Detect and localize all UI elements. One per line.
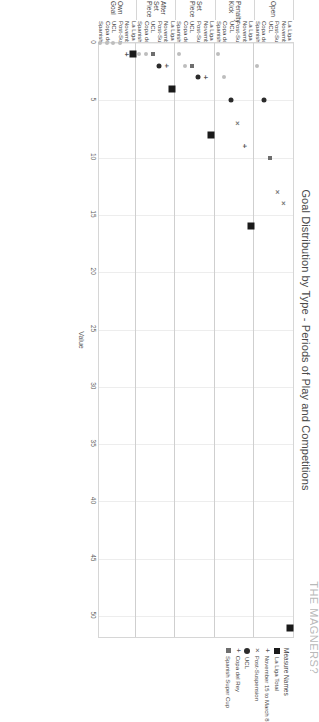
data-point[interactable] — [216, 52, 220, 56]
data-point[interactable] — [222, 75, 226, 79]
grid-line — [99, 272, 293, 273]
row-label: UCL — [229, 21, 236, 42]
data-point[interactable] — [190, 64, 194, 68]
row-label: La Liga Total — [248, 21, 255, 42]
legend-marker-icon: × — [253, 648, 261, 653]
row-label: UCL — [189, 21, 196, 42]
data-point[interactable] — [261, 98, 266, 103]
data-point[interactable] — [105, 41, 109, 45]
value-axis-label: Value — [78, 42, 85, 638]
row-label: La Liga Total — [209, 21, 216, 42]
legend-label: Post-Suspension — [254, 656, 260, 701]
group-label: After Set Piece — [137, 0, 175, 20]
chart-title: Goal Distribution by Type - Periods of P… — [300, 0, 312, 680]
data-point[interactable] — [247, 223, 254, 230]
row-label: Post-Suspension — [235, 21, 242, 42]
legend-marker-icon — [226, 648, 231, 653]
group-separator — [174, 43, 175, 637]
row-label: November 15 to March 8 — [124, 21, 131, 42]
data-point[interactable] — [208, 131, 215, 138]
legend-marker-icon: + — [234, 648, 242, 653]
group-header: Open — [255, 0, 294, 20]
row-label: Post-Suspension — [196, 21, 203, 42]
legend-label: La Liga Total — [274, 657, 280, 691]
grid-line — [99, 43, 293, 44]
group-label: Set Piece — [176, 0, 214, 20]
grid-line — [99, 387, 293, 388]
data-point[interactable] — [183, 64, 187, 68]
row-label: La Liga Total — [287, 21, 294, 42]
legend-marker-icon: + — [264, 648, 272, 653]
row-label: UCL — [111, 21, 118, 42]
value-axis: Value 05101520253035404550 — [73, 42, 97, 638]
group-label: Own Goal — [98, 0, 136, 20]
data-point[interactable]: × — [273, 190, 281, 195]
legend-label: UCL — [245, 657, 251, 669]
row-label: UCL — [268, 21, 275, 42]
group-separator — [135, 43, 136, 637]
row-label: Spanish Super Cup — [176, 21, 183, 42]
row-label: November 15 to March 8 — [281, 21, 288, 42]
data-point[interactable] — [177, 52, 181, 56]
row-label: November 15 to March 8 — [242, 21, 249, 42]
data-point[interactable]: × — [279, 201, 287, 206]
group-header: Penalty Kick — [216, 0, 255, 20]
legend-label: November 15 to March 8 — [265, 656, 271, 722]
axis-tick-label: 45 — [90, 554, 97, 561]
axis-tick-label: 30 — [90, 382, 97, 389]
data-point[interactable] — [151, 52, 155, 56]
data-point[interactable] — [286, 624, 293, 631]
row-label: Post-Suspension — [274, 21, 281, 42]
data-point[interactable]: × — [233, 121, 241, 126]
group-separator — [253, 43, 254, 637]
row-label: Post-Suspension — [118, 21, 125, 42]
plot-area: ××+×+++ — [98, 42, 294, 638]
axis-tick-label: 25 — [90, 325, 97, 332]
group-label: Open — [255, 0, 293, 20]
data-point[interactable] — [98, 41, 102, 45]
axis-tick-label: 40 — [90, 497, 97, 504]
group-label: Penalty Kick — [216, 0, 254, 20]
row-label: Spanish Super Cup — [255, 21, 262, 42]
row-label: La Liga Total — [131, 21, 138, 42]
data-point[interactable]: + — [201, 75, 209, 80]
grid-line — [99, 215, 293, 216]
axis-tick-label: 15 — [90, 210, 97, 217]
data-point[interactable] — [169, 85, 176, 92]
group-header: After Set Piece — [137, 0, 176, 20]
data-point[interactable] — [111, 41, 115, 45]
group-header: Set Piece — [176, 0, 215, 20]
data-point[interactable] — [196, 75, 201, 80]
grid-line — [99, 616, 293, 617]
axis-tick-label: 5 — [90, 97, 97, 101]
axis-tick-label: 0 — [90, 40, 97, 44]
axis-tick-label: 35 — [90, 440, 97, 447]
row-label: November 15 to March 8 — [203, 21, 210, 42]
row-label: Copa del Rey — [183, 21, 190, 42]
data-point[interactable] — [144, 52, 148, 56]
row-label: UCL — [150, 21, 157, 42]
data-point[interactable] — [157, 63, 162, 68]
grid-line — [99, 444, 293, 445]
data-point[interactable] — [228, 98, 233, 103]
axis-tick-label: 50 — [90, 611, 97, 618]
data-point[interactable] — [255, 64, 259, 68]
legend-marker-icon — [245, 648, 251, 654]
row-label: November 15 to March 8 — [163, 21, 170, 42]
grid-line — [99, 501, 293, 502]
axis-tick-label: 20 — [90, 268, 97, 275]
row-label: Spanish Super Cup — [216, 21, 223, 42]
grid-line — [99, 158, 293, 159]
data-point[interactable]: + — [162, 64, 170, 69]
data-point[interactable]: + — [240, 144, 248, 149]
grid-line — [99, 559, 293, 560]
grid-line — [99, 330, 293, 331]
data-point[interactable]: + — [122, 52, 130, 57]
row-label: Copa del Rey — [105, 21, 112, 42]
data-point[interactable] — [137, 52, 141, 56]
data-point[interactable] — [268, 156, 272, 160]
data-point[interactable] — [118, 41, 122, 45]
legend-label: Spanish Super Cup — [226, 656, 232, 708]
row-label: La Liga Total — [170, 21, 177, 42]
